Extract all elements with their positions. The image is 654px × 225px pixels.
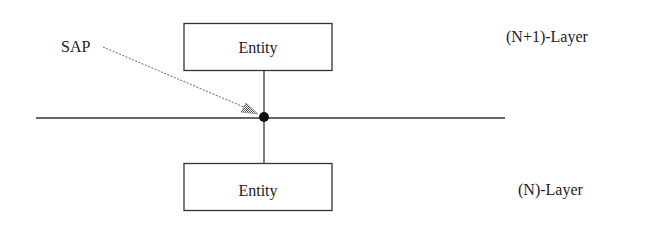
arrowhead-icon	[241, 103, 258, 114]
upper-layer-label: (N+1)-Layer	[506, 28, 589, 46]
upper-entity-label: Entity	[238, 39, 277, 57]
sap-point-dot	[259, 112, 269, 122]
lower-entity-label: Entity	[238, 182, 277, 200]
sap-label: SAP	[61, 38, 90, 55]
layer-diagram: Entity Entity SAP (N+1)-Layer (N)-Layer	[0, 0, 654, 225]
lower-entity-box: Entity	[184, 164, 332, 211]
lower-layer-label: (N)-Layer	[518, 181, 584, 199]
upper-entity-box: Entity	[184, 24, 332, 71]
